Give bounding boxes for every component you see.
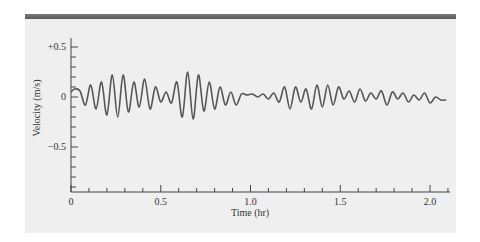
x-tick-label: 2.0 — [424, 196, 437, 207]
x-tick-label: 0 — [69, 196, 74, 207]
y-tick-label: 0 — [61, 91, 66, 102]
x-tick-label: 1.5 — [334, 196, 347, 207]
velocity-line — [71, 72, 446, 119]
x-tick-label: 0.5 — [155, 196, 168, 207]
y-tick-label: −0.5 — [48, 141, 66, 152]
x-axis-title: Time (hr) — [231, 207, 269, 219]
x-tick-label: 1.0 — [244, 196, 257, 207]
y-tick-label: +0.5 — [48, 41, 66, 52]
velocity-chart: +0.50−0.500.51.01.52.0 Time (hr) Velocit… — [0, 0, 480, 242]
axes: +0.50−0.500.51.01.52.0 — [48, 38, 450, 207]
y-axis-title: Velocity (m/s) — [31, 80, 43, 137]
